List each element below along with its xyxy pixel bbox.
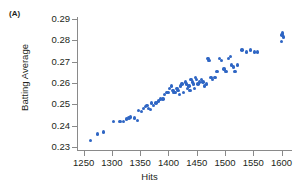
x-axis-line [77,150,292,151]
y-axis-tick-label: 0.23 [26,142,70,152]
x-axis-tick-label: 1600 [262,157,299,168]
x-axis-tick [282,151,283,156]
scatter-point [245,50,248,53]
x-axis-tick [84,151,85,156]
y-axis-tick [72,126,77,127]
y-axis-tick-label: 0.28 [26,35,70,45]
scatter-point [205,82,208,85]
scatter-point [224,70,227,73]
x-axis-label: Hits [0,171,299,182]
scatter-point [182,91,185,94]
scatter-point [89,139,92,142]
scatter-point [256,50,259,53]
x-axis-tick [168,151,169,156]
scatter-point [233,70,236,73]
scatter-point [161,97,164,100]
y-axis-tick-label: 0.24 [26,121,70,131]
plot-area [78,18,290,150]
scatter-point [282,35,285,38]
panel-label: (A) [9,9,20,19]
scatter-point [178,93,181,96]
scatter-point [166,91,169,94]
x-axis-tick [253,151,254,156]
x-axis-tick [140,151,141,156]
x-axis-tick [197,151,198,156]
scatter-point [213,76,216,79]
y-axis-tick-label: 0.25 [26,99,70,109]
scatter-point [192,82,195,85]
y-axis-tick [72,83,77,84]
y-axis-tick [72,40,77,41]
scatter-point [193,87,196,90]
scatter-point [129,115,132,118]
y-axis-tick [72,147,77,148]
scatter-point [215,70,218,73]
y-axis-tick-label: 0.29 [26,14,70,24]
x-axis-tick [225,151,226,156]
scatter-point [136,119,139,122]
scatter-point [112,120,115,123]
y-axis-tick [72,104,77,105]
scatter-point [236,63,239,66]
x-axis-tick [112,151,113,156]
scatter-point [149,108,152,111]
scatter-plot-figure: (A) Batting Average 0.230.240.250.260.27… [0,0,299,191]
scatter-point [176,89,179,92]
y-axis-tick-label: 0.26 [26,78,70,88]
scatter-point [229,55,232,58]
scatter-point [281,31,284,34]
scatter-point [232,65,235,68]
scatter-point [187,84,190,87]
scatter-point [240,48,243,51]
scatter-point [220,59,223,62]
scatter-point [207,59,210,62]
y-axis-tick [72,19,77,20]
scatter-point [170,84,173,87]
y-axis-tick-label: 0.27 [26,57,70,67]
scatter-point [249,48,252,51]
scatter-point [140,110,143,113]
scatter-point [96,132,99,135]
scatter-point [102,130,105,133]
scatter-point [280,40,283,43]
y-axis-tick [72,62,77,63]
scatter-point [188,89,191,92]
